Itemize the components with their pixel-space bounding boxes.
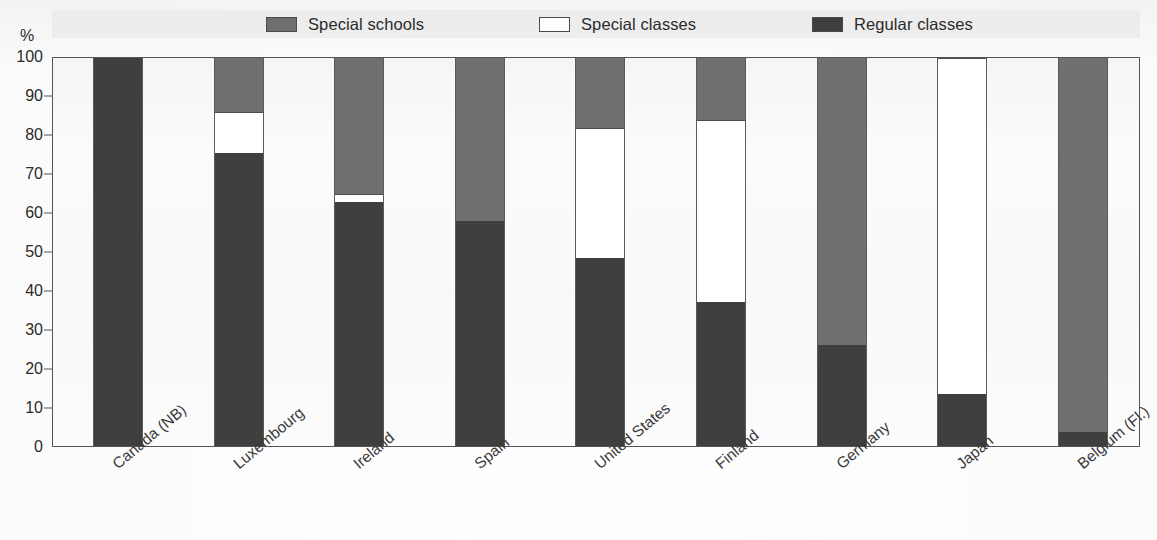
y-axis-tick-mark — [44, 291, 52, 292]
y-axis-tick-mark — [44, 252, 52, 253]
y-axis-tick-label: 90 — [25, 87, 43, 105]
bar-luxembourg[interactable] — [214, 58, 264, 446]
bar-segment-regular-classes — [575, 258, 625, 446]
bar-canada-nb[interactable] — [93, 58, 143, 446]
bar-segment-special-classes — [575, 128, 625, 258]
plot-area — [52, 57, 1140, 447]
legend-swatch-icon — [539, 17, 570, 32]
legend-item-regular-classes[interactable]: Regular classes — [812, 15, 973, 34]
y-axis-tick-label: 10 — [25, 399, 43, 417]
bar-ireland[interactable] — [334, 58, 384, 446]
y-axis-tick-label: 70 — [25, 165, 43, 183]
y-axis: 0102030405060708090100 — [0, 57, 52, 447]
bar-segment-special-schools — [334, 58, 384, 194]
legend-item-special-classes[interactable]: Special classes — [539, 15, 696, 34]
bar-japan[interactable] — [937, 58, 987, 446]
bar-segment-regular-classes — [334, 202, 384, 446]
legend-swatch-icon — [812, 17, 843, 32]
bar-spain[interactable] — [455, 58, 505, 446]
bar-belgium-fl[interactable] — [1058, 58, 1108, 446]
y-axis-tick-label: 60 — [25, 204, 43, 222]
bar-segment-special-schools — [817, 58, 867, 345]
legend-item-label: Regular classes — [854, 15, 973, 34]
legend-item-special-schools[interactable]: Special schools — [266, 15, 424, 34]
bar-segment-special-schools — [455, 58, 505, 221]
y-axis-tick-mark — [44, 96, 52, 97]
bar-segment-special-schools — [214, 58, 264, 112]
bar-segment-special-classes — [214, 112, 264, 153]
bar-segment-regular-classes — [214, 153, 264, 446]
bar-segment-special-classes — [696, 120, 746, 302]
bar-segment-special-classes — [937, 58, 987, 394]
y-axis-unit-label: % — [20, 27, 34, 45]
y-axis-tick-label: 100 — [16, 48, 43, 66]
y-axis-tick-mark — [44, 135, 52, 136]
chart-page: Special schoolsSpecial classesRegular cl… — [0, 0, 1157, 540]
y-axis-tick-mark — [44, 369, 52, 370]
x-axis: Canada (NB)LuxembourgIrelandSpainUnited … — [52, 447, 1140, 540]
bar-united-states[interactable] — [575, 58, 625, 446]
bar-segment-special-schools — [1058, 58, 1108, 432]
y-axis-tick-mark — [44, 174, 52, 175]
legend-item-label: Special schools — [308, 15, 424, 34]
bar-segment-special-schools — [696, 58, 746, 120]
bar-segment-regular-classes — [455, 221, 505, 446]
y-axis-tick-label: 50 — [25, 243, 43, 261]
legend-swatch-icon — [266, 17, 297, 32]
y-axis-tick-label: 40 — [25, 282, 43, 300]
bar-segment-special-schools — [575, 58, 625, 128]
y-axis-tick-label: 20 — [25, 360, 43, 378]
bar-segment-special-classes — [334, 194, 384, 202]
y-axis-tick-mark — [44, 213, 52, 214]
bar-segment-regular-classes — [696, 302, 746, 446]
chart-legend: Special schoolsSpecial classesRegular cl… — [52, 10, 1140, 38]
bar-segment-regular-classes — [817, 345, 867, 446]
bar-segment-regular-classes — [93, 58, 143, 446]
y-axis-tick-mark — [44, 330, 52, 331]
y-axis-tick-mark — [44, 408, 52, 409]
y-axis-tick-label: 0 — [34, 438, 43, 456]
bar-finland[interactable] — [696, 58, 746, 446]
bar-group — [53, 58, 1139, 446]
bar-germany[interactable] — [817, 58, 867, 446]
legend-item-label: Special classes — [581, 15, 696, 34]
y-axis-tick-label: 30 — [25, 321, 43, 339]
y-axis-tick-label: 80 — [25, 126, 43, 144]
